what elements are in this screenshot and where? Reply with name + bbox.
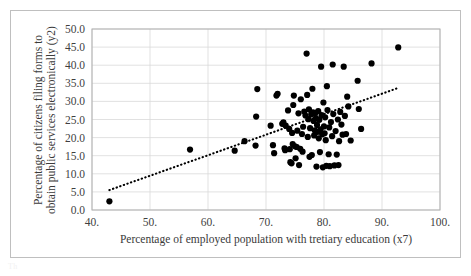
data-point	[291, 93, 297, 99]
page-scan-artifact: Th	[8, 262, 18, 271]
data-point	[313, 163, 319, 169]
data-point	[333, 128, 339, 134]
data-point	[326, 124, 332, 130]
data-point	[336, 138, 342, 144]
data-point	[304, 51, 310, 57]
data-point	[328, 119, 334, 125]
data-point	[292, 155, 298, 161]
x-tick-label: 40.	[85, 216, 100, 228]
data-point	[355, 78, 361, 84]
y-tick-label: 25.0	[65, 114, 85, 126]
data-point	[320, 99, 326, 105]
data-point	[324, 107, 330, 113]
data-point	[335, 116, 341, 122]
y-tick-label: 40.0	[65, 59, 85, 71]
trendline-path	[109, 88, 397, 190]
data-point	[309, 152, 315, 158]
data-point	[358, 126, 364, 132]
data-point	[253, 114, 259, 120]
data-point	[270, 142, 276, 148]
x-axis-title: Percentage of employed population with t…	[120, 233, 412, 246]
data-point	[241, 138, 247, 144]
data-point	[321, 123, 327, 129]
data-points	[106, 44, 401, 204]
y-tick-label: 45.0	[65, 41, 85, 53]
data-point	[334, 152, 340, 158]
data-point	[299, 149, 305, 155]
y-tick-label: 15.0	[65, 150, 85, 162]
data-point	[296, 162, 302, 168]
data-point	[323, 137, 329, 143]
data-point	[329, 133, 335, 139]
x-axis-tick-labels: 40.50.60.70.80.90.100.	[85, 216, 450, 228]
data-point	[338, 121, 344, 127]
x-tick-label: 90.	[375, 216, 390, 228]
data-point	[232, 148, 238, 154]
data-point	[395, 44, 401, 50]
data-point	[326, 151, 332, 157]
data-point	[290, 102, 296, 108]
data-point	[342, 113, 348, 119]
y-axis-tick-labels: 0.05.010.015.020.025.030.035.040.045.050…	[65, 23, 85, 216]
data-point	[343, 131, 349, 137]
data-point	[304, 92, 310, 98]
x-tick-label: 60.	[201, 216, 216, 228]
data-point	[356, 106, 362, 112]
gridlines	[92, 29, 440, 210]
data-point	[309, 86, 315, 92]
data-point	[254, 86, 260, 92]
data-point	[341, 64, 347, 70]
data-point	[299, 131, 305, 137]
y-tick-label: 0.0	[71, 204, 86, 216]
x-tick-label: 80.	[317, 216, 332, 228]
data-point	[271, 150, 277, 156]
y-tick-label: 5.0	[71, 186, 86, 198]
scatter-chart: 0.05.010.015.020.025.030.035.040.045.050…	[0, 0, 471, 276]
data-point	[295, 110, 301, 116]
x-tick-label: 70.	[259, 216, 274, 228]
data-point	[330, 111, 336, 117]
data-point	[330, 61, 336, 67]
data-point	[288, 160, 294, 166]
data-point	[268, 123, 274, 129]
trendline	[109, 88, 397, 190]
data-point	[321, 130, 327, 136]
y-tick-label: 20.0	[65, 132, 85, 144]
data-point	[298, 96, 304, 102]
data-point	[345, 103, 351, 109]
y-axis-title-line-2: obtain public services electronically (y…	[45, 26, 58, 214]
y-tick-label: 50.0	[65, 23, 85, 35]
figure-container: 0.05.010.015.020.025.030.035.040.045.050…	[0, 0, 471, 276]
data-point	[348, 137, 354, 143]
data-point	[322, 114, 328, 120]
data-point	[300, 124, 306, 130]
y-tick-label: 30.0	[65, 95, 85, 107]
data-point	[368, 60, 374, 66]
data-point	[318, 64, 324, 70]
y-tick-label: 10.0	[65, 168, 85, 180]
data-point	[317, 149, 323, 155]
data-point	[344, 94, 350, 100]
data-point	[275, 91, 281, 97]
data-point	[252, 142, 258, 148]
data-point	[187, 146, 193, 152]
x-tick-label: 50.	[143, 216, 158, 228]
x-tick-label: 100.	[430, 216, 450, 228]
data-point	[335, 162, 341, 168]
y-tick-label: 35.0	[65, 77, 85, 89]
data-point	[324, 83, 330, 89]
y-axis-title-line-1: Percentage of citizens filing forms to	[32, 35, 45, 205]
data-point	[305, 134, 311, 140]
data-point	[285, 107, 291, 113]
data-point	[106, 198, 112, 204]
